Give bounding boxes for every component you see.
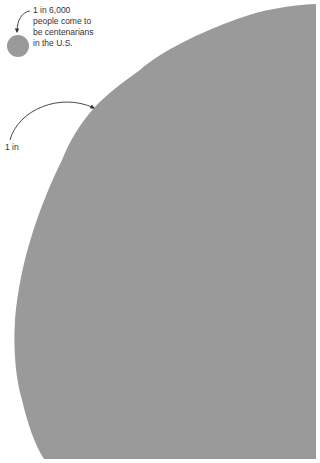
- annotation-line-4: in the U.S.: [33, 38, 94, 49]
- chart-canvas: [0, 0, 320, 463]
- annotation-line-1: 1 in 6,000: [33, 5, 94, 16]
- small-arrow-icon: [17, 11, 30, 32]
- annotation-line-2: people come to: [33, 16, 94, 27]
- small-circle-annotation: 1 in 6,000 people come to be centenarian…: [33, 5, 94, 49]
- large-shape-annotation: 1 in: [5, 142, 19, 153]
- small-circle: [7, 35, 29, 57]
- large-area-shape: [14, 4, 316, 459]
- annotation-line-3: be centenarians: [33, 27, 94, 38]
